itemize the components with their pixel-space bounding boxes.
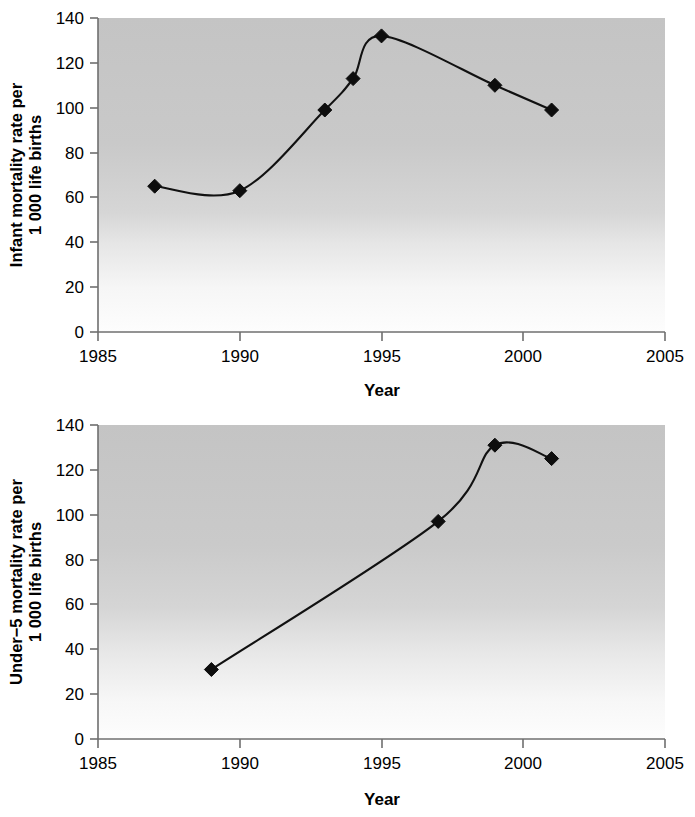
y-tick-label-140: 140 — [56, 9, 84, 28]
under5-mortality-svg: 140 120 100 80 60 40 20 0 1985 1990 1995… — [0, 407, 695, 817]
plot-panel-background — [98, 18, 665, 332]
x-axis-ticks — [98, 739, 665, 748]
infant-mortality-chart: 140 120 100 80 60 40 20 0 1985 1990 1995… — [0, 0, 695, 410]
y-tick-label-120: 120 — [56, 54, 84, 73]
y-tick-label-100: 100 — [56, 99, 84, 118]
y-axis-title: Under−5 mortality rate per 1 000 life bi… — [7, 478, 44, 684]
y-tick-label-120: 120 — [56, 461, 84, 480]
x-axis-ticks — [98, 332, 665, 341]
x-tick-label-2005: 2005 — [646, 754, 684, 773]
x-tick-label-1985: 1985 — [79, 347, 117, 366]
y-tick-label-20: 20 — [65, 278, 84, 297]
x-axis-title: Year — [364, 790, 400, 809]
y-tick-label-20: 20 — [65, 685, 84, 704]
x-tick-label-1995: 1995 — [363, 754, 401, 773]
plot-panel-background — [98, 425, 665, 739]
y-tick-label-100: 100 — [56, 506, 84, 525]
x-tick-label-1990: 1990 — [221, 754, 259, 773]
under5-mortality-chart: 140 120 100 80 60 40 20 0 1985 1990 1995… — [0, 407, 695, 817]
y-tick-label-80: 80 — [65, 144, 84, 163]
infant-mortality-svg: 140 120 100 80 60 40 20 0 1985 1990 1995… — [0, 0, 695, 410]
y-axis-title-line2: 1 000 life births — [26, 522, 44, 642]
y-axis-title-line2: 1 000 life births — [26, 115, 44, 235]
x-tick-label-1995: 1995 — [363, 347, 401, 366]
y-tick-label-140: 140 — [56, 416, 84, 435]
chart-page: 140 120 100 80 60 40 20 0 1985 1990 1995… — [0, 0, 695, 817]
y-tick-label-0: 0 — [75, 730, 84, 749]
y-axis-title-line1: Infant mortality rate per — [7, 82, 25, 267]
x-axis-title: Year — [364, 381, 400, 400]
y-axis-ticks — [90, 425, 98, 739]
y-tick-label-60: 60 — [65, 188, 84, 207]
x-tick-label-2005: 2005 — [646, 347, 684, 366]
y-tick-label-40: 40 — [65, 640, 84, 659]
y-axis-ticks — [90, 18, 98, 332]
x-tick-label-2000: 2000 — [504, 347, 542, 366]
y-tick-label-80: 80 — [65, 551, 84, 570]
x-tick-label-1985: 1985 — [79, 754, 117, 773]
y-tick-label-0: 0 — [75, 323, 84, 342]
x-tick-label-1990: 1990 — [221, 347, 259, 366]
x-tick-label-2000: 2000 — [504, 754, 542, 773]
y-axis-title: Infant mortality rate per 1 000 life bir… — [7, 82, 44, 267]
y-tick-label-40: 40 — [65, 233, 84, 252]
y-tick-label-60: 60 — [65, 595, 84, 614]
y-axis-title-line1: Under−5 mortality rate per — [7, 478, 25, 684]
